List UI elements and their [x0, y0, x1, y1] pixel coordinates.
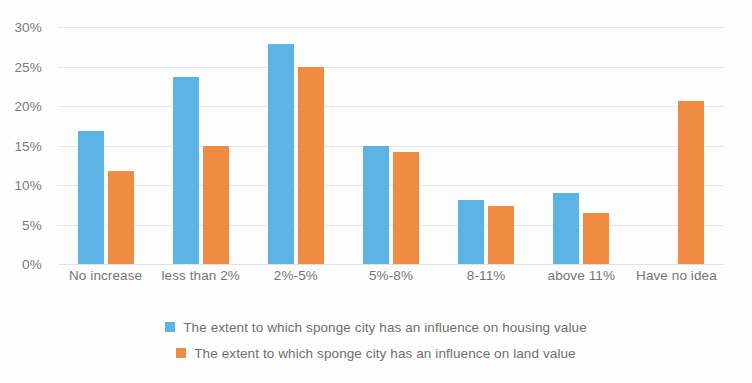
bar-series-1 [173, 77, 199, 264]
legend-item-label: The extent to which sponge city has an i… [194, 346, 575, 361]
y-axis: 0%5%10%15%20%25%30% [0, 27, 52, 264]
y-axis-tick-label: 5% [22, 217, 42, 232]
x-axis: No increaseless than 2%2%-5%5%-8%8-11%ab… [58, 268, 724, 283]
bar-series-1 [458, 200, 484, 264]
bar-group [153, 27, 248, 264]
x-axis-tick-label: 5%-8% [343, 268, 438, 283]
y-axis-tick-label: 30% [14, 20, 42, 35]
x-axis-tick-label: 2%-5% [248, 268, 343, 283]
bar-group [534, 27, 629, 264]
y-axis-tick-label: 20% [14, 99, 42, 114]
x-axis-tick-label: Have no idea [629, 268, 724, 283]
axis-baseline [58, 264, 724, 265]
legend-item[interactable]: The extent to which sponge city has an i… [0, 340, 752, 366]
x-axis-tick-label: 8-11% [439, 268, 534, 283]
bar-series-2 [298, 67, 324, 264]
bar-series-2 [203, 146, 229, 265]
y-axis-tick-label: 10% [14, 178, 42, 193]
bar-series-2 [393, 152, 419, 264]
bar-group [343, 27, 438, 264]
x-axis-tick-label: No increase [58, 268, 153, 283]
bar-series-2 [583, 213, 609, 264]
bar-series-1 [268, 44, 294, 264]
plot-area [58, 27, 724, 264]
y-axis-tick-label: 25% [14, 59, 42, 74]
bar-series-2 [488, 206, 514, 264]
x-axis-tick-label: less than 2% [153, 268, 248, 283]
legend-item-label: The extent to which sponge city has an i… [183, 320, 587, 335]
bar-group [58, 27, 153, 264]
bar-series-1 [553, 193, 579, 264]
x-axis-tick-label: above 11% [534, 268, 629, 283]
bar-series-2 [678, 101, 704, 264]
chart-legend: The extent to which sponge city has an i… [0, 314, 752, 366]
y-axis-tick-label: 15% [14, 138, 42, 153]
bar-group [629, 27, 724, 264]
legend-swatch-housing-value [165, 322, 175, 332]
bar-chart: 0%5%10%15%20%25%30% No increaseless than… [0, 0, 752, 383]
bar-series-1 [363, 146, 389, 265]
y-axis-tick-label: 0% [22, 257, 42, 272]
bar-series-1 [78, 131, 104, 264]
legend-swatch-land-value [176, 348, 186, 358]
legend-item[interactable]: The extent to which sponge city has an i… [0, 314, 752, 340]
bar-groups [58, 27, 724, 264]
bar-group [439, 27, 534, 264]
bar-series-2 [108, 171, 134, 264]
bar-group [248, 27, 343, 264]
